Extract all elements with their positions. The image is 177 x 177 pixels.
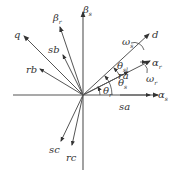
sc-label: sc [49,144,60,155]
sa-label: sa [119,101,130,112]
beta-r-axis [60,27,83,95]
rc-vector [72,95,83,145]
rb-label: rb [26,64,37,75]
sc-vector [61,95,83,141]
beta-r-label: βr [52,12,63,25]
theta-r-label: θr [103,85,113,98]
reference-frame-diagram: αs βs βr αr d q sb rb ra sa sc rc θr θs … [0,0,177,177]
omega-r-arc [145,65,147,73]
alpha-r-label: αr [152,57,163,70]
alpha-s-label: αs [158,89,168,102]
diagram-svg: αs βs βr αr d q sb rb ra sa sc rc θr θs … [0,0,177,177]
theta-r-arc [98,87,100,95]
d-axis [83,34,149,95]
d-label: d [152,29,158,40]
sb-label: sb [48,44,60,55]
rc-label: rc [66,152,77,163]
omega-s-label: ωs [122,36,133,49]
q-label: q [14,29,20,40]
omega-r-label: ωr [146,73,158,86]
